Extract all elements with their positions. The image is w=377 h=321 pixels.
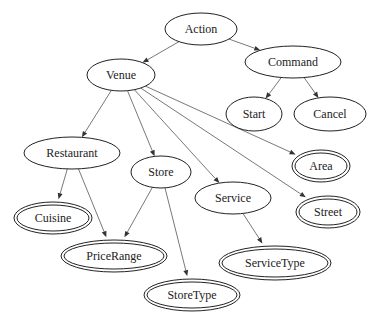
edge-venue-to-store [127, 91, 154, 157]
edge-line [165, 188, 186, 270]
edge-store-to-storetype [165, 188, 188, 276]
node-storetype: StoreType [144, 279, 240, 311]
node-label: Command [268, 55, 318, 69]
edge-command-to-cancel [304, 78, 318, 98]
node-area: Area [292, 150, 350, 182]
graph-diagram: ActionCommandVenueStartCancelRestaurantS… [0, 0, 377, 321]
node-pricerange: PriceRange [61, 240, 167, 272]
node-label: Restaurant [46, 146, 98, 160]
arrowhead-icon [124, 231, 129, 237]
node-servicetype: ServiceType [219, 246, 331, 280]
node-cancel: Cancel [294, 97, 366, 131]
edge-venue-to-restaurant [82, 90, 112, 137]
node-label: StoreType [167, 288, 216, 302]
arrowhead-icon [143, 57, 149, 62]
node-label: Cancel [313, 107, 347, 121]
nodes-layer: ActionCommandVenueStartCancelRestaurantS… [14, 13, 366, 311]
edge-command-to-start [266, 78, 282, 99]
node-label: Service [215, 191, 251, 205]
node-action: Action [165, 13, 237, 45]
node-label: Action [185, 22, 218, 36]
arrowhead-icon [183, 270, 188, 276]
arrowhead-icon [254, 46, 260, 51]
edge-line [127, 91, 152, 151]
node-label: Start [243, 107, 266, 121]
arrowhead-icon [82, 131, 87, 137]
arrowhead-icon [266, 92, 272, 98]
edge-line [269, 78, 281, 94]
node-venue: Venue [87, 59, 155, 91]
edge-line [60, 169, 67, 193]
edge-line [229, 39, 255, 48]
node-label: Street [314, 205, 343, 219]
node-restaurant: Restaurant [24, 137, 120, 169]
node-label: Venue [106, 68, 136, 82]
node-street: Street [296, 196, 360, 228]
node-start: Start [226, 97, 282, 131]
edge-action-to-venue [143, 42, 179, 63]
arrowhead-icon [102, 231, 107, 237]
node-label: PriceRange [86, 249, 141, 263]
node-label: Store [148, 165, 173, 179]
edge-action-to-command [229, 39, 260, 51]
arrowhead-icon [313, 92, 319, 98]
arrowhead-icon [299, 192, 305, 197]
arrowhead-icon [150, 150, 155, 156]
edge-store-to-pricerange [124, 187, 152, 237]
edge-line [243, 213, 259, 238]
arrowhead-icon [58, 193, 63, 199]
node-cuisine: Cuisine [14, 202, 92, 234]
node-label: Cuisine [35, 211, 72, 225]
arrowhead-icon [257, 237, 262, 243]
edge-service-to-servicetype [243, 213, 262, 243]
node-label: ServiceType [245, 256, 305, 270]
edge-line [85, 90, 111, 132]
node-store: Store [131, 156, 191, 188]
edge-line [127, 187, 152, 232]
edge-restaurant-to-cuisine [58, 169, 68, 199]
node-label: Area [309, 159, 333, 173]
node-service: Service [195, 182, 271, 214]
edge-line [304, 78, 315, 93]
node-command: Command [245, 46, 341, 78]
edge-line [148, 42, 179, 60]
